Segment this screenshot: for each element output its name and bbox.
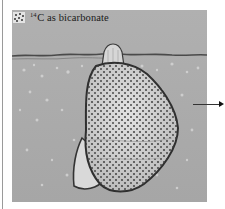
dotted-square-icon bbox=[13, 12, 25, 23]
left-border-rule bbox=[2, 0, 3, 209]
arrow-line bbox=[193, 104, 221, 105]
illustration-panel bbox=[12, 10, 207, 202]
legend: 14C as bicarbonate bbox=[13, 11, 109, 23]
arrow-right-icon bbox=[219, 101, 224, 107]
cell-illustration bbox=[12, 10, 207, 202]
legend-label: 14C as bicarbonate bbox=[30, 11, 109, 23]
